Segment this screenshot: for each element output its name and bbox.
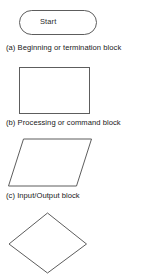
terminator-label: Start [40,17,56,26]
caption-beginning-termination-block: (a) Beginning or termination block [6,43,121,52]
terminator-shape [19,10,97,35]
process-shape [19,67,90,114]
decision-shape [8,212,88,274]
input-output-shape [7,138,93,188]
caption-input-output-block: (c) Input/Output block [6,191,80,200]
caption-processing-command-block: (b) Processing or command block [6,118,121,127]
